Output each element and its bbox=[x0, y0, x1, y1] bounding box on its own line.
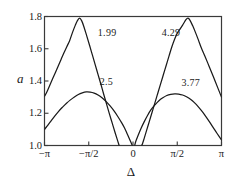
plot-area bbox=[0, 0, 248, 184]
data-curves bbox=[45, 18, 222, 145]
curve-3.77 bbox=[135, 94, 222, 146]
curve-2.5 bbox=[45, 92, 133, 146]
curve-1.99 bbox=[45, 18, 120, 145]
chart-figure: a 1.01.21.41.61.8 −π−π/20π/2π Δ 1.992.54… bbox=[0, 0, 248, 184]
curve-4.29 bbox=[141, 18, 221, 145]
